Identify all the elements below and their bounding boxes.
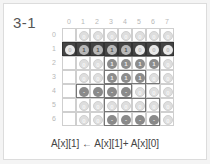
value-circle: - — [107, 115, 117, 125]
grid-cell: 1 — [104, 56, 118, 70]
row-header: 1 — [50, 45, 58, 52]
grid-cell: 0 — [160, 42, 174, 56]
zero-value-circle: 0 — [149, 31, 159, 41]
zero-value-circle: 0 — [93, 59, 103, 69]
zero-value-circle: 0 — [135, 101, 145, 111]
grid-cell: 0 — [90, 70, 104, 84]
grid-cell: - — [76, 84, 90, 98]
grid-cell: 1 — [146, 56, 160, 70]
grid-cell: 0 — [132, 84, 146, 98]
grid-cell: 0 — [62, 42, 76, 56]
zero-value-circle: 0 — [121, 101, 131, 111]
value-circle: - — [79, 87, 89, 97]
value-circle: - — [107, 87, 117, 97]
grid-cell: 0 — [146, 70, 160, 84]
grid-cell: 0 — [160, 84, 174, 98]
grid-cell: 1 — [132, 70, 146, 84]
row-header: 4 — [50, 87, 58, 94]
zero-value-circle: 0 — [93, 101, 103, 111]
grid-cell: 1 — [90, 42, 104, 56]
zero-value-circle: 0 — [79, 73, 89, 83]
zero-value-circle: 0 — [79, 115, 89, 125]
zero-value-circle: 0 — [163, 31, 173, 41]
value-circle: - — [135, 115, 145, 125]
zero-value-circle: 0 — [121, 31, 131, 41]
row-header: 3 — [50, 73, 58, 80]
zero-value-circle: 0 — [163, 101, 173, 111]
value-circle: 1 — [79, 45, 89, 55]
grid-cell: 1 — [118, 70, 132, 84]
value-circle: - — [121, 87, 131, 97]
grid-cell: 0 — [146, 84, 160, 98]
row-header: 6 — [50, 115, 58, 122]
value-circle: 1 — [149, 59, 159, 69]
grid-cell: 1 — [132, 56, 146, 70]
grid-cell: 0 — [118, 28, 132, 42]
row-header: 5 — [50, 101, 58, 108]
grid-cell — [62, 70, 76, 84]
grid-cell: 0 — [90, 56, 104, 70]
grid-cell: - — [118, 112, 132, 126]
grid-cell: - — [118, 84, 132, 98]
zero-value-circle: 0 — [135, 45, 145, 55]
value-circle: 1 — [121, 59, 131, 69]
grid-cell: 0 — [132, 42, 146, 56]
grid-cell: 0 — [104, 98, 118, 112]
grid-cell: 0 — [76, 28, 90, 42]
zero-value-circle: 0 — [149, 73, 159, 83]
grid-cell — [62, 56, 76, 70]
zero-value-circle: 0 — [79, 101, 89, 111]
grid-cell: 0 — [160, 56, 174, 70]
column-header: 7 — [160, 18, 174, 25]
value-circle: 1 — [107, 59, 117, 69]
grid-cell: - — [104, 84, 118, 98]
zero-value-circle: 0 — [107, 31, 117, 41]
grid-cell: 1 — [104, 70, 118, 84]
value-circle: - — [93, 87, 103, 97]
zero-value-circle: 0 — [163, 59, 173, 69]
grid-cell: 0 — [160, 98, 174, 112]
grid-cell: 0 — [90, 28, 104, 42]
grid-cell: 0 — [132, 98, 146, 112]
grid-cell: 0 — [76, 98, 90, 112]
grid-cell: 0 — [76, 112, 90, 126]
value-circle: 1 — [121, 73, 131, 83]
column-header: 6 — [146, 18, 160, 25]
column-header: 1 — [76, 18, 90, 25]
zero-value-circle: 0 — [135, 31, 145, 41]
zero-value-circle: 0 — [149, 87, 159, 97]
grid-cell: - — [104, 112, 118, 126]
figure-title: 3-1 — [13, 14, 36, 31]
grid-cell: 0 — [160, 28, 174, 42]
zero-value-circle: 0 — [163, 115, 173, 125]
value-circle: - — [121, 115, 131, 125]
grid-cell: 0 — [76, 70, 90, 84]
grid-cell: 1 — [76, 42, 90, 56]
zero-value-circle: 0 — [163, 45, 173, 55]
grid-cell: 0 — [90, 112, 104, 126]
zero-value-circle: 0 — [65, 45, 75, 55]
grid-cell — [62, 98, 76, 112]
zero-value-circle: 0 — [149, 101, 159, 111]
update-formula: A[x][1] ← A[x][1]+ A[x][0] — [4, 138, 206, 149]
zero-value-circle: 0 — [93, 73, 103, 83]
grid-cell: 0 — [132, 28, 146, 42]
grid-cell: - — [132, 112, 146, 126]
grid-cell: 1 — [118, 42, 132, 56]
grid-cell: 0 — [76, 56, 90, 70]
grid-cell: 0 — [118, 98, 132, 112]
grid-cell: 0 — [160, 70, 174, 84]
diagram-card: 3-1 01234567 0123456 0000000011110000011… — [3, 3, 207, 160]
grid-cell — [62, 112, 76, 126]
column-header: 4 — [118, 18, 132, 25]
column-header: 5 — [132, 18, 146, 25]
grid-cell: 0 — [160, 112, 174, 126]
zero-value-circle: 0 — [93, 31, 103, 41]
grid-cell: - — [90, 84, 104, 98]
grid-cell: 1 — [104, 42, 118, 56]
zero-value-circle: 0 — [79, 31, 89, 41]
value-circle: 1 — [121, 45, 131, 55]
grid-cell: 1 — [118, 56, 132, 70]
grid-cell: 0 — [146, 28, 160, 42]
grid-cell: 0 — [104, 28, 118, 42]
